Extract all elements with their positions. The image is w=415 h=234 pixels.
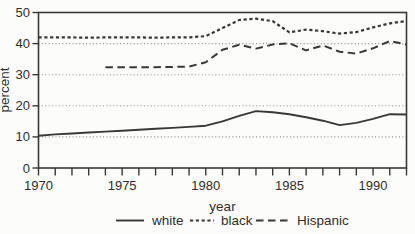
y-axis-title: percent <box>0 67 12 112</box>
x-tick-label-1990: 1990 <box>359 178 388 193</box>
figure-container: 0102030405019701975198019851990percentye… <box>0 0 415 234</box>
legend-label-hispanic: Hispanic <box>297 213 349 228</box>
y-tick-label-10: 10 <box>16 129 30 144</box>
line-chart: 0102030405019701975198019851990percentye… <box>0 0 415 234</box>
x-axis-title: year <box>209 199 236 214</box>
x-tick-label-1970: 1970 <box>24 178 53 193</box>
legend-label-black: black <box>221 213 253 228</box>
y-tick-label-0: 0 <box>23 161 30 176</box>
y-tick-label-40: 40 <box>16 36 30 51</box>
x-tick-label-1975: 1975 <box>108 178 137 193</box>
y-tick-label-50: 50 <box>16 5 30 20</box>
legend-label-white: white <box>151 213 184 228</box>
x-tick-label-1985: 1985 <box>275 178 304 193</box>
y-tick-label-20: 20 <box>16 98 30 113</box>
y-tick-label-30: 30 <box>16 67 30 82</box>
x-tick-label-1980: 1980 <box>191 178 220 193</box>
